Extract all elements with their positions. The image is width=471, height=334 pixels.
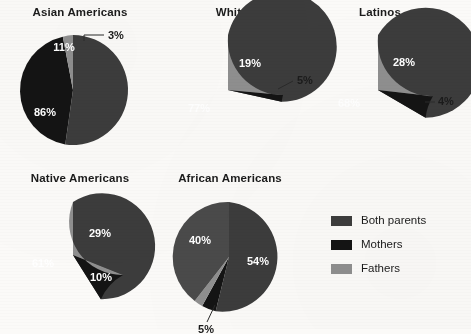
slice-label-mothers: 11% [53,41,75,53]
pie-slice-both-parents [73,193,155,299]
slice-label-fathers: 10% [90,271,112,283]
panel-title: African Americans [155,172,305,184]
pie-panel-african-americans: African Americans 54% 40% 5% [155,172,325,329]
slice-label-fathers: 4% [438,95,454,107]
pie-panel-native-americans: Native Americans 61% 29% 10% [0,172,160,329]
legend-item-mothers[interactable]: Mothers [331,235,461,255]
legend-item-fathers[interactable]: Fathers [331,259,461,279]
pie-chart-whites: 77% 19% 5% [155,23,330,163]
pie-panel-asian-americans: Asian Americans 86% 11% 3% [0,6,160,166]
panel-title: Asian Americans [0,6,160,18]
pie-chart-latinos: 68% 28% 4% [305,23,471,163]
legend-swatch-icon [331,264,352,274]
pie-chart-native-americans: 61% 29% 10% [0,189,160,329]
pie-chart-asian-americans: 86% 11% 3% [0,23,160,163]
slice-label-both-parents: 61% [32,257,54,269]
pie-chart-african-americans: 54% 40% 5% [155,189,325,334]
slice-label-mothers: 28% [393,56,415,68]
slice-label-mothers: 29% [89,227,111,239]
slice-label-mothers: 19% [239,57,261,69]
slice-label-both-parents: 54% [247,255,269,267]
legend-swatch-icon [331,240,352,250]
legend-swatch-icon [331,216,352,226]
legend-label: Mothers [361,239,403,251]
legend-label: Fathers [361,263,400,275]
legend-item-both-parents[interactable]: Both parents [331,211,461,231]
slice-label-fathers: 5% [198,323,214,334]
legend-label: Both parents [361,215,426,227]
slice-label-both-parents: 77% [188,102,210,114]
pie-panel-latinos: Latinos 68% 28% 4% [305,6,471,166]
chart-legend: Both parents Mothers Fathers [331,211,461,283]
slice-label-mothers: 40% [189,234,211,246]
slice-label-fathers: 3% [108,29,124,41]
panel-title: Native Americans [0,172,160,184]
slice-label-both-parents: 86% [34,106,56,118]
slice-label-both-parents: 68% [338,97,360,109]
pie-panel-whites: Whites 77% 19% 5% [155,6,315,166]
